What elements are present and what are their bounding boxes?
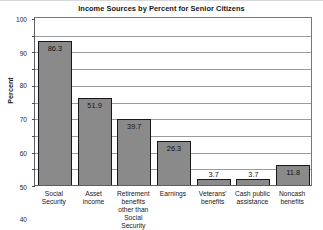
y-axis-tick: 40 [32,119,35,120]
gridline [35,52,311,53]
bar: 51.9 [78,98,112,185]
category-label-line: Veterans' [193,190,233,198]
category-label-line: benefits [113,198,153,206]
y-axis-tick: 10 [32,169,35,170]
y-axis-tick-label: 80 [20,82,27,89]
bar: 26.3 [157,141,191,185]
chart-title: Income Sources by Percent for Senior Cit… [0,4,323,13]
plot-area: 100908070605040302010086.351.939.726.33.… [34,17,312,186]
y-axis-tick: 0 [32,186,35,187]
category-label-line: Noncash [272,190,312,198]
category-label-line: benefits [272,198,312,206]
y-axis-tick-label: 40 [20,216,27,223]
y-axis-tick: 90 [32,36,35,37]
x-axis-category-label: Cash publicassistance [233,190,273,206]
y-axis-tick: 80 [32,52,35,53]
bar-value-label: 3.7 [248,170,258,179]
bar-value-label: 39.7 [127,122,141,131]
category-label-line: Cash public [233,190,273,198]
gridline [35,36,311,37]
category-label-line: Retirement [113,190,153,198]
category-label-line: Earnings [153,190,193,198]
gridline [35,86,311,87]
x-axis-category-label: Veterans'benefits [193,190,233,206]
x-axis-category-label: Noncashbenefits [272,190,312,206]
bar-value-label: 3.7 [209,170,219,179]
category-label-line: Security [34,198,74,206]
x-axis-category-label: Earnings [153,190,193,198]
category-label-line: Social [34,190,74,198]
category-label-line: benefits [193,198,233,206]
y-axis-tick: 30 [32,136,35,137]
bar: 3.7 [236,179,270,185]
x-axis-category-label: SocialSecurity [34,190,74,206]
bar: 86.3 [38,41,72,185]
bar: 3.7 [197,179,231,185]
chart-figure: Income Sources by Percent for Senior Cit… [0,0,323,230]
category-label-line: Social Security [113,214,153,230]
bar: 11.8 [276,165,310,185]
y-axis-tick-label: 50 [20,184,27,191]
bar-value-label: 51.9 [87,101,101,110]
y-axis-tick-label: 70 [20,116,27,123]
gridline [35,69,311,70]
y-axis-tick-label: 90 [20,50,27,57]
y-axis-tick: 70 [32,69,35,70]
y-axis-tick-label: 100 [16,16,27,23]
y-axis-tick: 50 [32,103,35,104]
gridline [35,103,311,104]
figure-border [0,0,323,1]
x-axis-category-label: Assetincome [74,190,114,206]
category-label-line: income [74,198,114,206]
y-axis-tick: 20 [32,153,35,154]
x-axis-category-label: Retirementbenefitsother thanSocial Secur… [113,190,153,230]
y-axis-tick-label: 60 [20,150,27,157]
bar-value-label: 86.3 [48,44,62,53]
bar-value-label: 26.3 [167,144,181,153]
category-label-line: other than [113,206,153,214]
gridline [35,119,311,120]
y-axis-tick: 100 [32,19,35,20]
category-label-line: Asset [74,190,114,198]
y-axis-label: Percent [6,61,15,121]
bar: 39.7 [117,119,151,185]
y-axis-tick: 60 [32,86,35,87]
category-label-line: assistance [233,198,273,206]
gridline [35,136,311,137]
bar-value-label: 11.8 [286,168,300,177]
